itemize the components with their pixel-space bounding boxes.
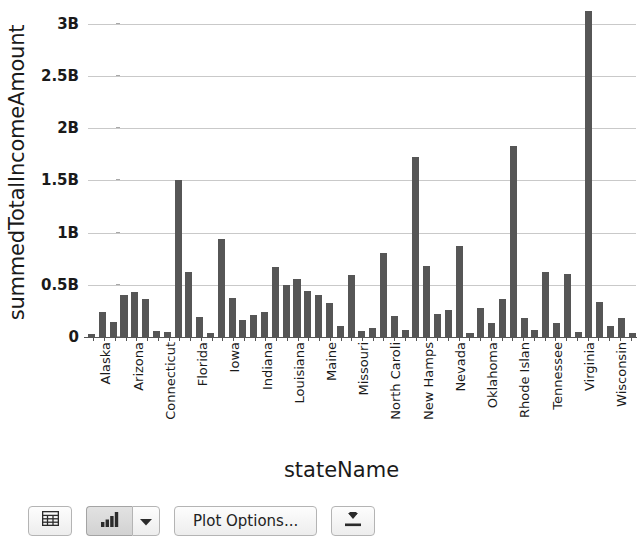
x-axis-tick-mark <box>126 337 127 341</box>
bar[interactable] <box>618 318 625 337</box>
bar[interactable] <box>434 314 441 337</box>
bar[interactable] <box>283 285 290 337</box>
bar-chart-view-button[interactable] <box>86 506 132 536</box>
bar[interactable] <box>196 317 203 337</box>
table-view-button[interactable] <box>28 506 72 536</box>
download-icon <box>344 511 362 531</box>
bar[interactable] <box>239 320 246 337</box>
x-axis-tick-mark <box>598 337 599 341</box>
bar[interactable] <box>131 292 138 337</box>
bar[interactable] <box>99 312 106 337</box>
bar[interactable] <box>531 330 538 337</box>
chevron-down-icon <box>140 512 152 530</box>
bar[interactable] <box>272 267 279 337</box>
x-axis-tick-mark <box>373 337 374 341</box>
y-axis-tick-label: 2.5B <box>41 67 79 85</box>
bar[interactable] <box>564 274 571 337</box>
x-axis-tick-mark <box>158 337 159 341</box>
table-grid-icon <box>42 511 59 530</box>
x-axis-tick-label: Maine <box>324 342 339 381</box>
bar[interactable] <box>250 315 257 337</box>
bar[interactable] <box>369 328 376 337</box>
x-axis-tick-mark <box>201 337 202 341</box>
x-axis-tick-mark <box>255 337 256 341</box>
x-axis-tick-mark <box>212 337 213 341</box>
bar-chart: summedTotalIncomeAmount 00.5B1B1.5B2B2.5… <box>0 0 637 495</box>
bar[interactable] <box>445 310 452 337</box>
x-axis-tick-label: Indiana <box>260 342 275 390</box>
bar[interactable] <box>423 266 430 337</box>
x-axis-tick-mark <box>523 337 524 341</box>
y-axis-tick-label: 0.5B <box>41 276 79 294</box>
bar[interactable] <box>521 318 528 337</box>
y-axis-tick-label: 0 <box>69 328 79 346</box>
bar[interactable] <box>391 316 398 337</box>
x-axis-tick-mark <box>394 337 395 341</box>
x-axis-tick-mark <box>330 337 331 341</box>
plot-area <box>88 8 636 337</box>
x-axis-tick-label: Virginia <box>582 342 597 391</box>
bar[interactable] <box>585 11 592 337</box>
bar[interactable] <box>142 299 149 337</box>
x-axis-tick-mark <box>566 337 567 341</box>
bar[interactable] <box>293 279 300 337</box>
bar[interactable] <box>380 253 387 337</box>
x-axis-tick-mark <box>179 337 180 341</box>
x-axis-tick-mark <box>437 337 438 341</box>
x-axis-tick-mark <box>169 337 170 341</box>
bar[interactable] <box>596 302 603 338</box>
bar[interactable] <box>261 312 268 337</box>
x-axis-tick-mark <box>147 337 148 341</box>
x-axis-tick-mark <box>308 337 309 341</box>
plot-options-label: Plot Options... <box>193 512 298 530</box>
bar[interactable] <box>175 180 182 337</box>
bar-chart-icon <box>100 511 120 531</box>
bar[interactable] <box>412 157 419 337</box>
x-axis-tick-mark <box>265 337 266 341</box>
bar[interactable] <box>402 330 409 337</box>
plot-options-button[interactable]: Plot Options... <box>174 506 317 536</box>
x-axis-tick-mark <box>545 337 546 341</box>
export-button[interactable] <box>331 506 375 536</box>
bar[interactable] <box>510 146 517 337</box>
x-axis-tick-labels: AlaskaArizonaConnecticutFloridaIowaIndia… <box>88 342 636 452</box>
bar[interactable] <box>218 239 225 337</box>
bar[interactable] <box>477 308 484 337</box>
x-axis-tick-label: Iowa <box>227 342 242 372</box>
bar[interactable] <box>499 299 506 337</box>
bar[interactable] <box>304 291 311 337</box>
x-axis-tick-label: Oklahoma <box>485 342 500 408</box>
x-axis-tick-mark <box>480 337 481 341</box>
chart-view: summedTotalIncomeAmount 00.5B1B1.5B2B2.5… <box>0 0 637 543</box>
x-axis-tick-label: North Caroli <box>388 342 403 420</box>
bar[interactable] <box>456 246 463 337</box>
x-axis-tick-mark <box>351 337 352 341</box>
bar[interactable] <box>229 298 236 337</box>
bar[interactable] <box>185 272 192 337</box>
x-axis-tick-label: Rhode Islan <box>517 342 532 418</box>
x-axis-tick-mark <box>341 337 342 341</box>
x-axis-tick-mark <box>405 337 406 341</box>
bar[interactable] <box>337 326 344 337</box>
bar[interactable] <box>326 303 333 337</box>
x-axis-tick-mark <box>244 337 245 341</box>
x-axis-tick-mark <box>459 337 460 341</box>
x-axis-tick-mark <box>93 337 94 341</box>
x-axis-tick-mark <box>233 337 234 341</box>
bar[interactable] <box>348 275 355 337</box>
x-axis-tick-mark <box>448 337 449 341</box>
bar[interactable] <box>542 272 549 337</box>
y-axis-tick-labels: 00.5B1B1.5B2B2.5B3B <box>32 0 84 345</box>
bar[interactable] <box>553 323 560 337</box>
bar[interactable] <box>607 326 614 337</box>
bar[interactable] <box>488 323 495 337</box>
y-axis-title: summedTotalIncomeAmount <box>0 0 34 345</box>
x-axis-tick-mark <box>416 337 417 341</box>
chart-type-dropdown-button[interactable] <box>132 506 160 536</box>
bar[interactable] <box>120 295 127 337</box>
bar[interactable] <box>315 295 322 337</box>
bar-series <box>88 8 636 337</box>
bar[interactable] <box>110 322 117 337</box>
y-axis-tick-label: 3B <box>57 15 79 33</box>
x-axis-tick-label: Arizona <box>131 342 146 391</box>
